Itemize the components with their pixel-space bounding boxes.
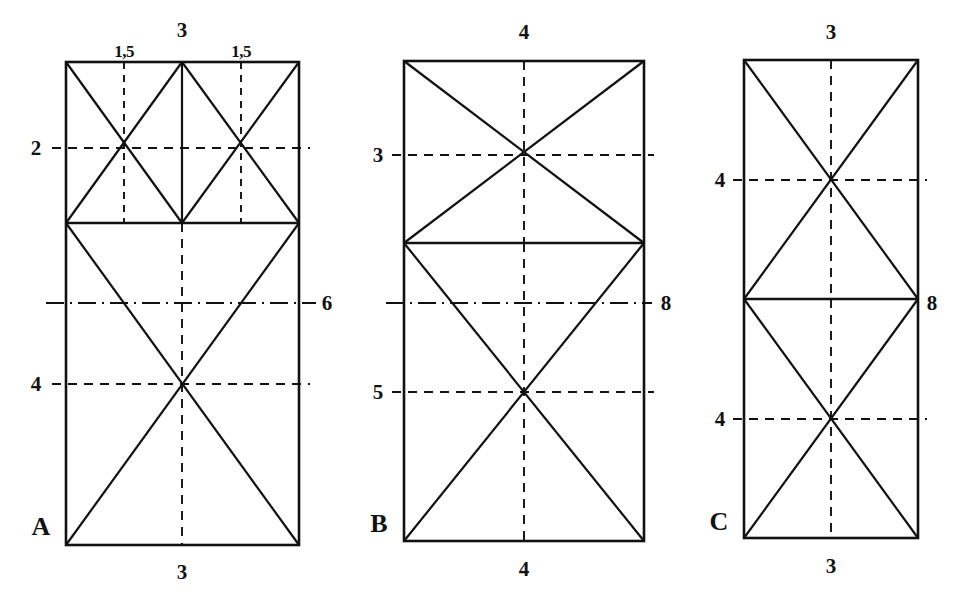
diagram-b-label-bottom: 4 (519, 559, 530, 580)
diagram-a-label-left-upper: 2 (31, 138, 42, 159)
figure-container: 3 1,5 1,5 2 4 6 3 A 4 3 5 8 4 B 3 4 4 8 … (0, 0, 965, 600)
diagram-c-figure-label: C (710, 509, 729, 535)
diagram-a-label-top: 3 (177, 20, 188, 41)
diagram-b-geometry (386, 61, 654, 541)
diagram-b-label-left-upper: 3 (373, 145, 384, 166)
diagram-b-label-top: 4 (519, 22, 530, 43)
diagram-a-label-right-center: 6 (322, 293, 333, 314)
diagram-c-label-right-center: 8 (927, 293, 938, 314)
diagram-b-figure-label: B (370, 511, 387, 537)
diagram-a-label-left-lower: 4 (31, 374, 42, 395)
diagram-b-label-right-center: 8 (661, 293, 672, 314)
diagram-a-label-top-right-half: 1,5 (231, 43, 251, 60)
figure-drawing (0, 0, 965, 600)
diagram-a-label-top-left-half: 1,5 (114, 43, 134, 60)
diagram-a-geometry (46, 62, 316, 545)
diagram-c-label-bottom: 3 (826, 556, 837, 577)
diagram-b-label-left-lower: 5 (373, 382, 384, 403)
diagram-c-geometry (733, 60, 927, 538)
diagram-a-label-bottom: 3 (177, 562, 188, 583)
diagram-c-label-left-lower: 4 (715, 409, 726, 430)
diagram-a-figure-label: A (32, 514, 51, 540)
diagram-c-label-top: 3 (826, 22, 837, 43)
diagram-c-label-left-upper: 4 (715, 170, 726, 191)
